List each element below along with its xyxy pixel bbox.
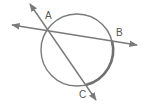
point-label-A: A xyxy=(45,10,52,21)
geometry-diagram: A B C xyxy=(0,0,145,110)
point-label-C: C xyxy=(79,89,86,100)
point-label-B: B xyxy=(116,27,123,38)
line-AC xyxy=(30,4,96,100)
arc-BC-highlight xyxy=(86,41,113,85)
